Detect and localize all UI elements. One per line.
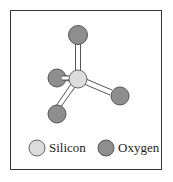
oxygen-atom-bottom-left	[48, 105, 66, 123]
bond-si-o4	[56, 84, 75, 108]
silicon-atom-center	[69, 70, 87, 88]
legend-oxygen-label: Oxygen	[118, 141, 159, 155]
legend-silicon-label: Silicon	[49, 141, 86, 155]
oxygen-atom-top	[69, 26, 88, 45]
bond-si-o3	[84, 79, 112, 95]
legend-silicon-swatch	[29, 140, 45, 156]
legend-oxygen-swatch	[98, 140, 114, 156]
oxygen-atom-right	[111, 87, 129, 105]
bond-si-o1	[76, 44, 81, 71]
